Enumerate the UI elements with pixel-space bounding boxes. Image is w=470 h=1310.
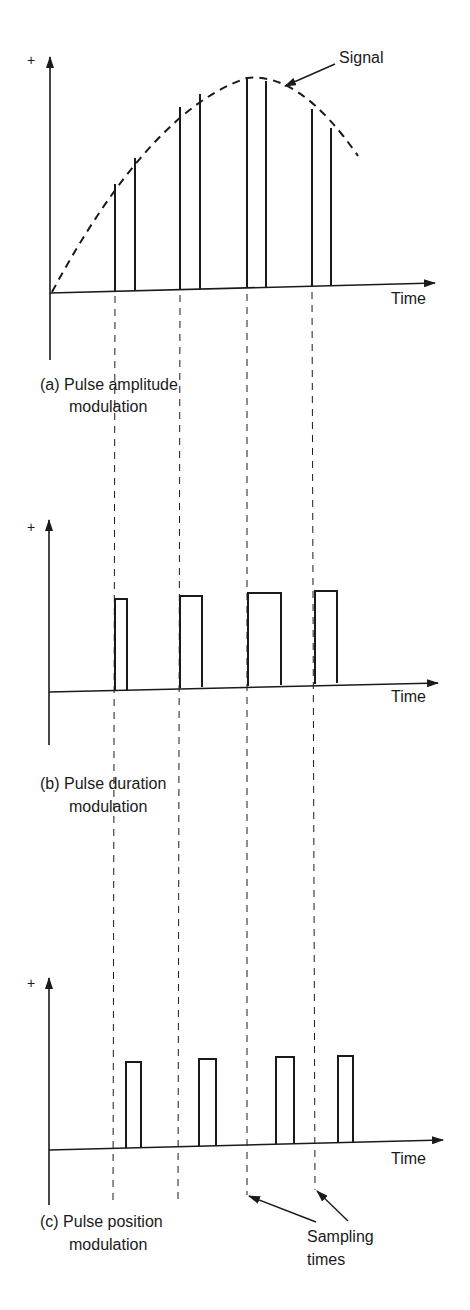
time-label-b: Time: [391, 686, 426, 708]
sampling-arrow-1: [249, 1196, 316, 1222]
panel-a-pam: [50, 57, 435, 360]
time-axis-a: [50, 283, 435, 293]
pam-pulses: [115, 79, 331, 292]
pdm-pulses: [115, 591, 337, 690]
time-label-a: Time: [391, 288, 426, 310]
sampling-label-line2: times: [307, 1249, 345, 1271]
caption-b-line2: modulation: [69, 796, 147, 818]
plus-sign-b: +: [27, 519, 35, 535]
caption-b-line1: (b) Pulse duration: [40, 773, 166, 795]
sampling-guide-lines: [113, 292, 315, 1205]
caption-a-line2: modulation: [69, 396, 147, 418]
panel-b-pdm: [49, 520, 438, 745]
ppm-pulses: [126, 1056, 353, 1148]
modulation-diagram: [0, 0, 470, 1310]
plus-sign-c: +: [27, 975, 35, 991]
caption-c-line2: modulation: [69, 1234, 147, 1256]
caption-a-line1: (a) Pulse amplitude: [40, 374, 178, 396]
signal-label: Signal: [339, 47, 383, 69]
time-label-c: Time: [391, 1148, 426, 1170]
time-axis-b: [49, 683, 438, 692]
sampling-label-line1: Sampling: [307, 1226, 374, 1248]
caption-c-line1: (c) Pulse position: [40, 1211, 163, 1233]
panel-c-ppm: [49, 978, 443, 1222]
time-axis-c: [49, 1140, 443, 1150]
sampling-arrow-2: [317, 1191, 348, 1221]
plus-sign-a: +: [27, 52, 35, 68]
signal-pointer-arrow: [285, 64, 335, 86]
